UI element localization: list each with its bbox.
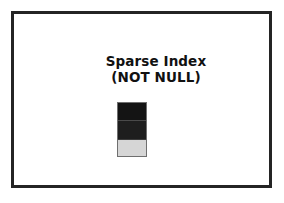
sparse-index-column (117, 102, 147, 157)
caption-line-primary: Sparse Index (14, 54, 284, 69)
caption-line-secondary: (NOT NULL) (14, 70, 284, 85)
slide-frame: Sparse Index (NOT NULL) (11, 11, 272, 188)
index-segment-middle (118, 120, 146, 139)
figure-root: Sparse Index (NOT NULL) (0, 0, 284, 203)
caption: Sparse Index (NOT NULL) (14, 54, 284, 84)
index-segment-top (118, 103, 146, 120)
index-segment-bottom (118, 139, 146, 156)
